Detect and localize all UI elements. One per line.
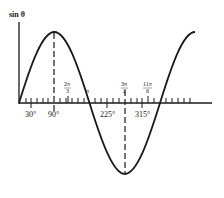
tick-label-pi: π — [86, 88, 89, 94]
tick-label-315deg: 315° — [135, 110, 150, 119]
tick-label-2pi-3-den: 3 — [66, 88, 69, 94]
tick-label-11pi-6-den: 6 — [146, 88, 149, 94]
x-axis-ticks — [26, 96, 190, 108]
tick-label-90deg: 90° — [48, 110, 59, 119]
tick-label-225deg: 225° — [100, 110, 115, 119]
tick-label-3pi-2-num: 3π — [121, 81, 127, 87]
tick-label-30deg: 30° — [25, 110, 36, 119]
y-axis-label: sin θ — [9, 10, 25, 19]
tick-label-3pi-2-den: 2 — [123, 88, 126, 94]
sine-chart: sin θ 30° 90° 225° 31 — [0, 0, 224, 198]
tick-label-2pi-3-num: 2π — [64, 81, 70, 87]
tick-label-11pi-6-num: 11π — [143, 81, 152, 87]
